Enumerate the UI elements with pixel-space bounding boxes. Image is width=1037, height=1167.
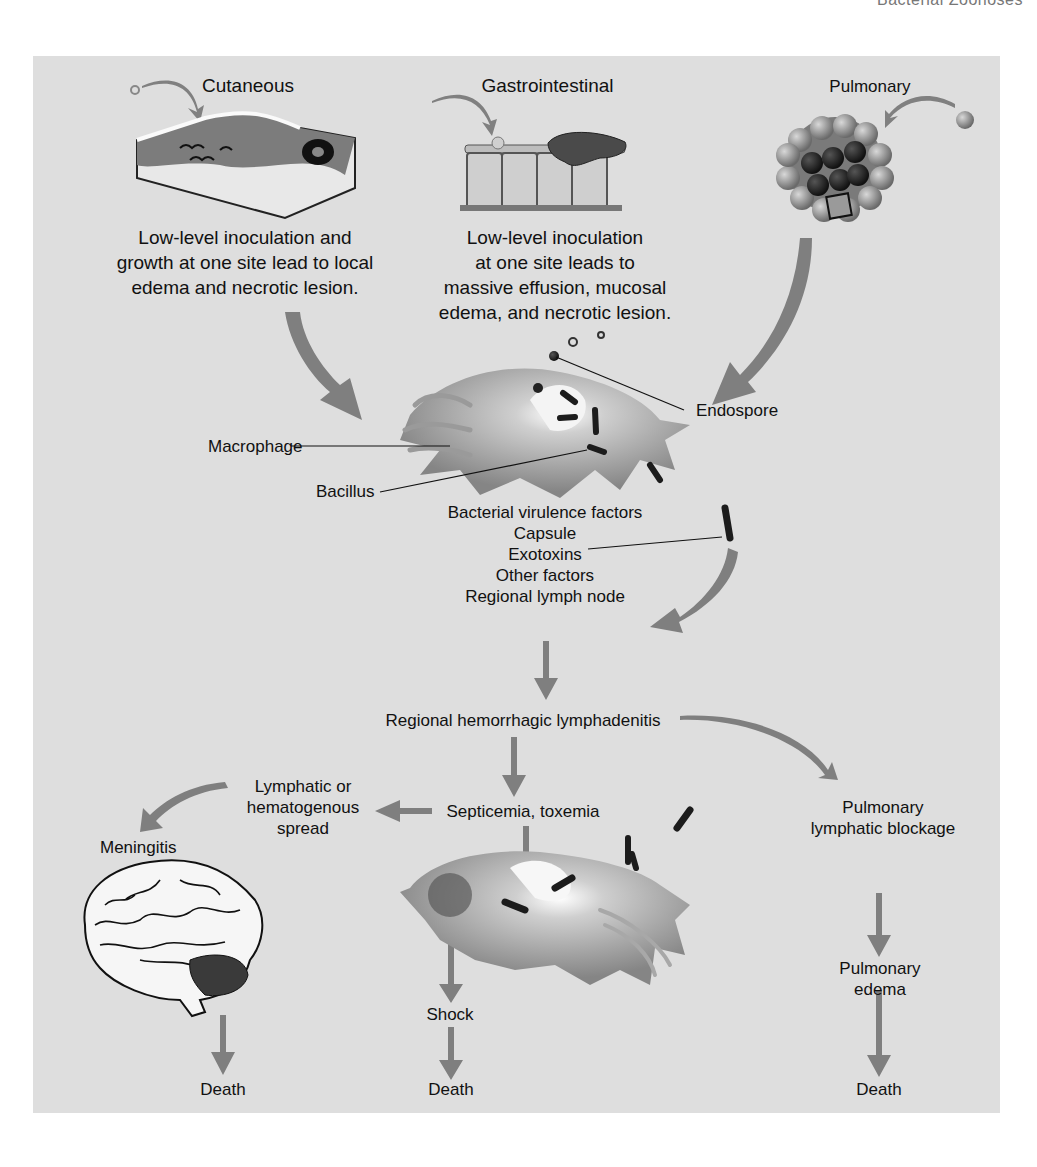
- desc-line: massive effusion, mucosal: [430, 275, 680, 300]
- lymph-node-label: Regional lymph node: [430, 586, 660, 607]
- arrow-left-to-spread: [375, 800, 432, 822]
- pulmonary-edema-label: Pulmonary edema: [820, 958, 940, 1000]
- virulence-item: Capsule: [430, 523, 660, 544]
- desc-line: Low-level inoculation and: [110, 225, 380, 250]
- death-label-center: Death: [416, 1079, 486, 1100]
- virulence-item: Other factors: [430, 565, 660, 586]
- virulence-item: Exotoxins: [430, 544, 660, 565]
- arrow-to-pulmonary-blockage: [680, 716, 838, 780]
- desc-line: at one site leads to: [430, 250, 680, 275]
- cutaneous-description: Low-level inoculation and growth at one …: [110, 225, 380, 300]
- bacillus-label: Bacillus: [316, 481, 375, 502]
- virulence-factors-list: Bacterial virulence factors Capsule Exot…: [430, 502, 660, 607]
- desc-line: edema, and necrotic lesion.: [430, 300, 680, 325]
- gastrointestinal-description: Low-level inoculation at one site leads …: [430, 225, 680, 325]
- meningitis-label: Meningitis: [100, 837, 177, 858]
- spread-line: Lymphatic or: [238, 776, 368, 797]
- infected-macrophage-icon: [400, 851, 690, 985]
- arrow-cutaneous-to-cell: [285, 312, 362, 420]
- brain-icon: [84, 860, 262, 1016]
- desc-line: edema and necrotic lesion.: [110, 275, 380, 300]
- spread-label: Lymphatic or hematogenous spread: [238, 776, 368, 839]
- spread-line: hematogenous: [238, 797, 368, 818]
- edema-line: Pulmonary: [820, 958, 940, 979]
- pulmonary-blockage-label: Pulmonary lymphatic blockage: [808, 797, 958, 839]
- shock-label: Shock: [415, 1004, 485, 1025]
- septicemia-label: Septicemia, toxemia: [438, 801, 608, 822]
- arrow-to-meningitis: [140, 782, 228, 832]
- desc-line: Low-level inoculation: [430, 225, 680, 250]
- cutaneous-title: Cutaneous: [168, 73, 328, 98]
- intestinal-epithelium-icon: [432, 95, 626, 211]
- skin-tissue-icon: [131, 81, 355, 218]
- death-label-left: Death: [188, 1079, 258, 1100]
- alveoli-icon: [776, 96, 974, 222]
- gastrointestinal-title: Gastrointestinal: [460, 73, 635, 98]
- macrophage-label: Macrophage: [208, 436, 303, 457]
- death-label-right: Death: [844, 1079, 914, 1100]
- arrow-pulmonary-to-cell: [712, 238, 812, 405]
- blockage-line: Pulmonary: [808, 797, 958, 818]
- desc-line: growth at one site lead to local: [110, 250, 380, 275]
- pulmonary-title: Pulmonary: [810, 76, 930, 97]
- spread-line: spread: [238, 818, 368, 839]
- endospore-label: Endospore: [687, 400, 787, 421]
- lymphadenitis-label: Regional hemorrhagic lymphadenitis: [378, 710, 668, 731]
- virulence-heading: Bacterial virulence factors: [430, 502, 660, 523]
- blockage-line: lymphatic blockage: [808, 818, 958, 839]
- arrow-to-lymph-node: [650, 548, 738, 633]
- edema-line: edema: [820, 979, 940, 1000]
